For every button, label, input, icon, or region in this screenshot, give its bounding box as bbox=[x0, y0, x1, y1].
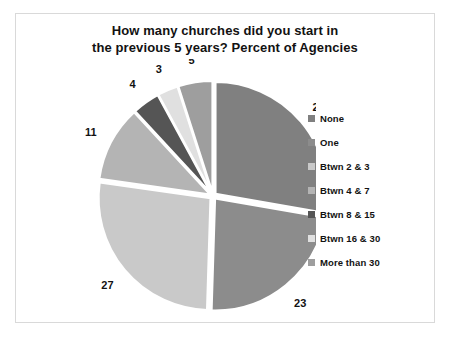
legend-item[interactable]: One bbox=[308, 130, 428, 154]
legend-item[interactable]: More than 30 bbox=[308, 250, 428, 274]
chart-title-line-1: How many churches did you start in bbox=[16, 22, 434, 39]
legend-item[interactable]: Btwn 4 & 7 bbox=[308, 178, 428, 202]
legend-swatch-icon bbox=[308, 211, 315, 218]
legend-swatch-icon bbox=[308, 115, 315, 122]
legend-item-label: One bbox=[320, 137, 339, 148]
legend-item[interactable]: Btwn 8 & 15 bbox=[308, 202, 428, 226]
legend-item-label: Btwn 16 & 30 bbox=[320, 233, 380, 244]
legend-swatch-icon bbox=[308, 187, 315, 194]
pie-slice-value-label: 5 bbox=[189, 59, 195, 66]
pie-slice-value-label: 23 bbox=[294, 297, 306, 309]
legend-item-label: None bbox=[320, 113, 344, 124]
legend-swatch-icon bbox=[308, 259, 315, 266]
chart-title: How many churches did you start in the p… bbox=[16, 22, 434, 56]
pie-slice-value-label: 4 bbox=[130, 78, 137, 90]
pie-slice-value-label: 27 bbox=[101, 279, 113, 291]
legend-item-label: Btwn 2 & 3 bbox=[320, 161, 370, 172]
legend-item-label: Btwn 8 & 15 bbox=[320, 209, 375, 220]
chart-title-line-2: the previous 5 years? Percent of Agencie… bbox=[16, 39, 434, 56]
pie-slice-value-label: 3 bbox=[156, 63, 162, 75]
pie-slice[interactable] bbox=[99, 182, 211, 310]
legend-item[interactable]: Btwn 2 & 3 bbox=[308, 154, 428, 178]
legend-item-label: Btwn 4 & 7 bbox=[320, 185, 370, 196]
legend-item-label: More than 30 bbox=[320, 257, 380, 268]
pie-slice[interactable] bbox=[215, 82, 316, 213]
pie-slice[interactable] bbox=[212, 198, 316, 310]
legend-item[interactable]: Btwn 16 & 30 bbox=[308, 226, 428, 250]
chart-frame: How many churches did you start in the p… bbox=[15, 13, 435, 323]
pie-slice-group bbox=[99, 81, 316, 311]
pie-chart-area: 28232711435 bbox=[16, 59, 316, 319]
legend-swatch-icon bbox=[308, 139, 315, 146]
pie-slice-value-label: 11 bbox=[85, 126, 97, 138]
pie-chart-svg: 28232711435 bbox=[16, 59, 316, 319]
legend-item[interactable]: None bbox=[308, 106, 428, 130]
legend-swatch-icon bbox=[308, 235, 315, 242]
legend-swatch-icon bbox=[308, 163, 315, 170]
chart-legend: NoneOneBtwn 2 & 3Btwn 4 & 7Btwn 8 & 15Bt… bbox=[308, 106, 428, 274]
